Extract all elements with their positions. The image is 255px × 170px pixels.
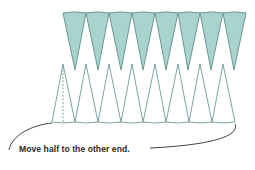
bottom-sector [143, 64, 166, 123]
top-sector [178, 12, 200, 70]
top-sector [63, 12, 86, 70]
top-sector [155, 12, 178, 70]
right-curved-arrow-line [150, 124, 236, 148]
bottom-sector [121, 64, 143, 123]
bottom-row-outline-sectors [52, 64, 235, 123]
bottom-sector [212, 64, 235, 123]
top-sector [200, 12, 223, 70]
top-sector [109, 12, 132, 70]
top-sector [86, 12, 109, 70]
caption-move-half: Move half to the other end. [19, 144, 130, 154]
bottom-sector [166, 64, 189, 123]
top-row-filled-sectors [63, 12, 246, 70]
top-sector [132, 12, 155, 70]
bottom-sector [52, 64, 75, 123]
bottom-sector [98, 64, 121, 123]
bottom-sector [75, 64, 98, 123]
bottom-sector [189, 64, 212, 123]
top-sector [223, 12, 246, 70]
